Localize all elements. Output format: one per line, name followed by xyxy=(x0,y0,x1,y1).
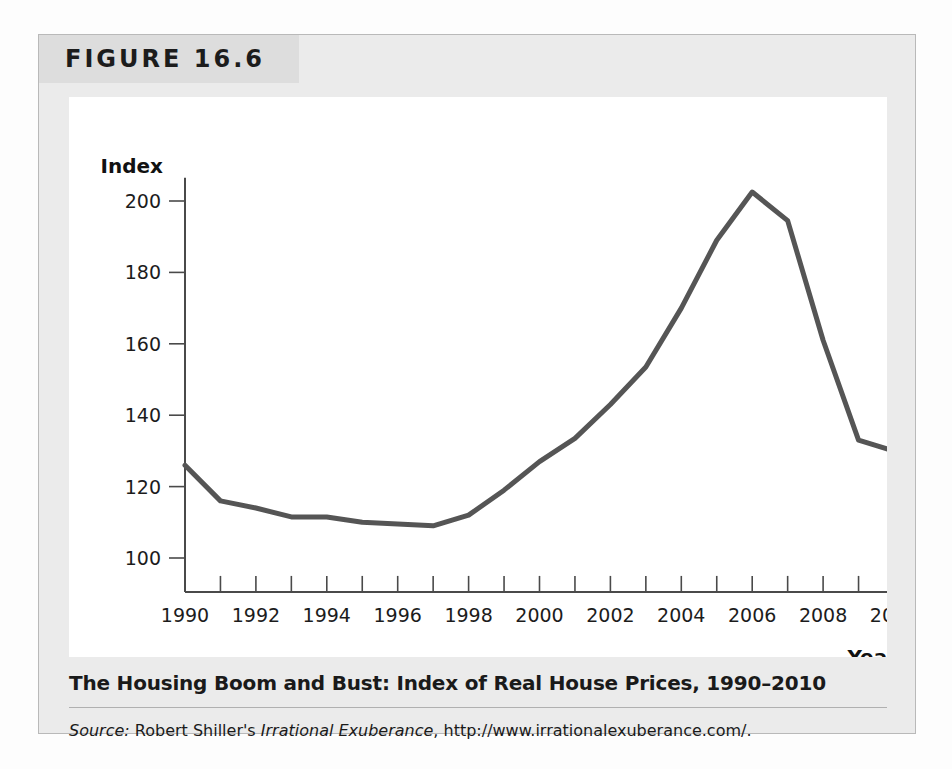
figure-page: FIGURE 16.6 100120140160180200Index19901… xyxy=(0,0,952,769)
x-axis-tick-label: 2002 xyxy=(586,604,634,626)
x-axis-tick-label: 2004 xyxy=(657,604,705,626)
figure-number-header: FIGURE 16.6 xyxy=(39,35,299,83)
figure-caption-block: The Housing Boom and Bust: Index of Real… xyxy=(69,671,887,740)
x-axis-tick-label: 1992 xyxy=(232,604,280,626)
caption-divider xyxy=(69,707,887,708)
line-chart: 100120140160180200Index19901992199419961… xyxy=(69,97,887,657)
y-axis-tick-label: 200 xyxy=(125,190,161,212)
source-url: , http://www.irrationalexuberance.com/. xyxy=(433,721,751,740)
x-axis-tick-label: 1996 xyxy=(374,604,422,626)
y-axis-tick-label: 160 xyxy=(125,333,161,355)
y-axis-title: Index xyxy=(101,154,164,178)
y-axis-tick-label: 120 xyxy=(125,476,161,498)
house-price-index-line xyxy=(185,192,887,526)
x-axis-tick-label: 1994 xyxy=(303,604,351,626)
source-prefix: Source: xyxy=(69,721,130,740)
figure-caption-title: The Housing Boom and Bust: Index of Real… xyxy=(69,671,887,695)
x-axis-tick-label: 2006 xyxy=(728,604,776,626)
figure-number-label: FIGURE 16.6 xyxy=(65,45,265,73)
source-author: Robert Shiller's xyxy=(130,721,261,740)
figure-source-line: Source: Robert Shiller's Irrational Exub… xyxy=(69,721,887,740)
x-axis-tick-label: 1998 xyxy=(444,604,492,626)
x-axis-tick-label: 2000 xyxy=(515,604,563,626)
source-work-title: Irrational Exuberance xyxy=(261,721,434,740)
x-axis-title: Year xyxy=(846,645,887,657)
x-axis-tick-label: 2010 xyxy=(870,604,887,626)
y-axis-tick-label: 100 xyxy=(125,547,161,569)
figure-card: FIGURE 16.6 100120140160180200Index19901… xyxy=(38,34,916,734)
y-axis-tick-label: 140 xyxy=(125,404,161,426)
y-axis-tick-label: 180 xyxy=(125,261,161,283)
x-axis-tick-label: 2008 xyxy=(799,604,847,626)
chart-plot-panel: 100120140160180200Index19901992199419961… xyxy=(69,97,887,657)
x-axis-tick-label: 1990 xyxy=(161,604,209,626)
